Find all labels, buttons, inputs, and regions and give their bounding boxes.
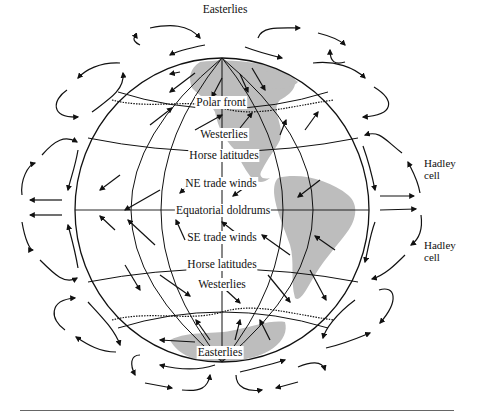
label-horse-latitudes-south: Horse latitudes: [186, 258, 257, 271]
south-america-landmass: [274, 176, 355, 299]
label-polar-front: Polar front: [195, 96, 247, 109]
label-equatorial-doldrums: Equatorial doldrums: [175, 204, 271, 217]
bottom-rule-divider: [20, 410, 454, 411]
label-westerlies-south: Westerlies: [197, 278, 247, 291]
hadley-cell-south-line1: Hadley: [424, 239, 456, 251]
label-horse-latitudes-north: Horse latitudes: [188, 149, 259, 162]
label-ne-trade-winds: NE trade winds: [184, 177, 258, 190]
label-easterlies-south: Easterlies: [197, 346, 244, 359]
latitude-line-s60: [118, 312, 328, 328]
label-hadley-cell-south: Hadley cell: [424, 239, 456, 263]
label-easterlies-north: Easterlies: [202, 3, 249, 16]
label-westerlies-north: Westerlies: [199, 128, 249, 141]
label-se-trade-winds: SE trade winds: [186, 231, 258, 244]
polar-front-south: [112, 308, 334, 320]
hadley-cell-south-line2: cell: [424, 251, 456, 263]
hadley-cell-north-line2: cell: [424, 169, 456, 181]
label-hadley-cell-north: Hadley cell: [424, 157, 456, 181]
hadley-cell-north-line1: Hadley: [424, 157, 456, 169]
